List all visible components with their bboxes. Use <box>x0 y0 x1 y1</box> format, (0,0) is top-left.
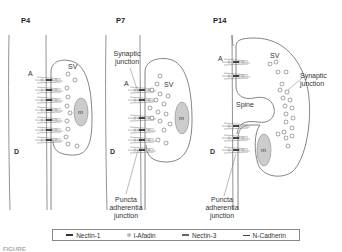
afadin-swatch-icon <box>127 233 131 237</box>
vesicle-label-p7: SV <box>164 81 173 89</box>
vesicle-label-p4: SV <box>68 63 77 71</box>
synaptic-junction-label-p7: Synaptic junction <box>107 50 147 66</box>
vesicle-label-p14: SV <box>270 52 279 60</box>
stage-label-p4: P4 <box>21 17 30 25</box>
axon-label-p4: A <box>28 70 33 78</box>
stage-label-p7: P7 <box>116 17 125 25</box>
legend: Nectin-1 l-Afadin Nectin-3 N-Cadherin <box>52 229 300 241</box>
panel-p4 <box>9 35 92 210</box>
puncta-label-p7: Puncta adherentia junction <box>102 196 150 220</box>
axon-label-p7: A <box>124 80 129 88</box>
puncta-label-p14: Puncta adherentia junction <box>198 196 246 220</box>
ncadherin-swatch-icon <box>243 235 250 236</box>
dendrite-label-p7: D <box>110 148 115 156</box>
legend-item-afadin: l-Afadin <box>127 232 156 239</box>
mito-label-p7: m <box>179 114 184 122</box>
stage-label-p14: P14 <box>213 17 226 25</box>
legend-item-ncadherin: N-Cadherin <box>243 232 286 239</box>
legend-item-nectin3: Nectin-3 <box>182 232 216 239</box>
synaptic-junction-label-p14: Synaptic junction <box>300 72 338 88</box>
mito-label-p14: m <box>261 146 266 154</box>
panel-p14 <box>222 35 310 210</box>
nectin3-swatch-icon <box>182 234 189 236</box>
dendrite-label-p4: D <box>14 148 19 156</box>
dendrite-label-p14: D <box>210 148 215 156</box>
figure-caption: FIGURE <box>3 246 26 252</box>
legend-item-nectin1: Nectin-1 <box>66 232 100 239</box>
mito-label-p4: m <box>78 108 83 116</box>
spine-label-p14: Spine <box>236 101 254 109</box>
nectin1-swatch-icon <box>66 234 73 236</box>
axon-label-p14: A <box>218 55 223 63</box>
synapse-development-diagram <box>0 0 342 252</box>
